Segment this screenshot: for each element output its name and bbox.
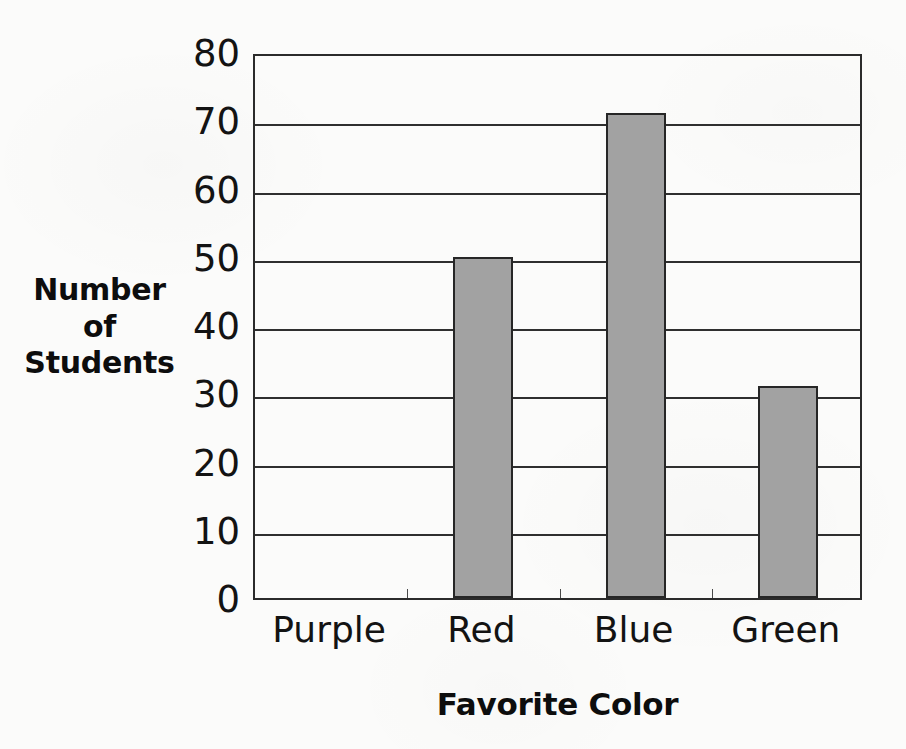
y-axis-tick-label: 70 bbox=[193, 103, 240, 140]
bar-green bbox=[758, 386, 818, 598]
chart-page: Number of Students 01020304050607080 Pur… bbox=[0, 0, 906, 749]
x-axis-tick-mark bbox=[712, 589, 713, 598]
y-axis-tick-label: 40 bbox=[193, 308, 240, 345]
x-axis-tick-mark bbox=[407, 589, 408, 598]
x-axis-label-red: Red bbox=[405, 612, 557, 648]
x-axis-label-purple: Purple bbox=[253, 612, 405, 648]
y-axis-tick-label: 80 bbox=[193, 35, 240, 72]
y-axis-tick-label: 30 bbox=[193, 376, 240, 413]
plot-area bbox=[253, 54, 862, 600]
gridline bbox=[255, 193, 860, 195]
gridline bbox=[255, 329, 860, 331]
bar-blue bbox=[606, 113, 666, 598]
gridline bbox=[255, 261, 860, 263]
gridline bbox=[255, 124, 860, 126]
y-axis-tick-label: 10 bbox=[193, 513, 240, 550]
y-axis-tick-label: 60 bbox=[193, 172, 240, 209]
y-axis-tick-label: 0 bbox=[216, 581, 240, 618]
y-axis-tick-labels: 01020304050607080 bbox=[130, 0, 240, 749]
x-axis-label-green: Green bbox=[710, 612, 862, 648]
y-axis-tick-label: 20 bbox=[193, 445, 240, 482]
x-axis-title: Favorite Color bbox=[253, 686, 862, 722]
x-axis-label-blue: Blue bbox=[558, 612, 710, 648]
bar-red bbox=[453, 257, 513, 598]
x-axis-tick-mark bbox=[560, 589, 561, 598]
y-axis-tick-label: 50 bbox=[193, 240, 240, 277]
